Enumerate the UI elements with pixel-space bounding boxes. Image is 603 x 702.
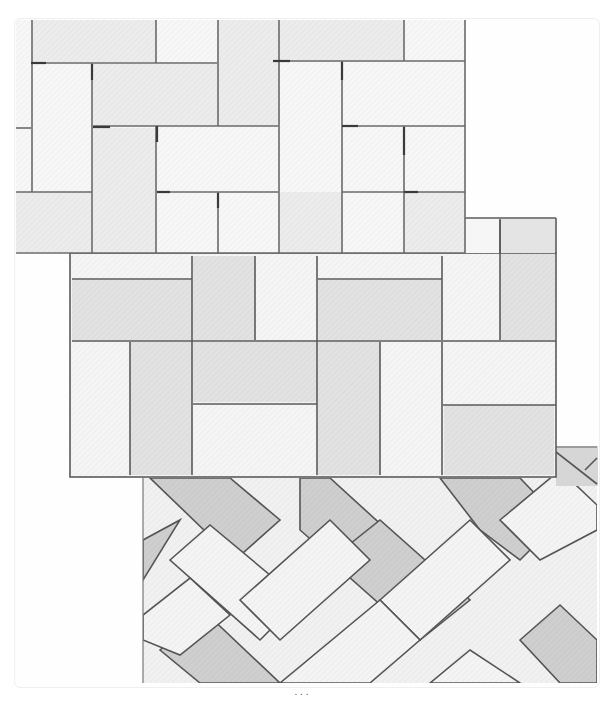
paving-patterns-illustration — [0, 0, 603, 702]
figure-caption: . . . — [0, 686, 603, 697]
herringbone-edge — [556, 446, 598, 486]
basketweave-middle-panel — [70, 218, 556, 477]
herringbone-panel — [143, 470, 597, 683]
basketweave-top-panel — [16, 20, 465, 253]
